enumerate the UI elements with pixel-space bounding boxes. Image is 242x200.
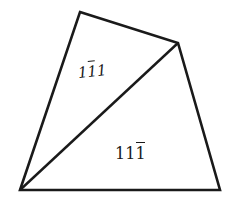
region-label-upper: 111 xyxy=(77,63,107,81)
region-label-lower: 111 xyxy=(115,146,146,162)
label-digit: 1 xyxy=(125,146,135,162)
label-digit-barred: 1 xyxy=(135,146,145,162)
label-digit: 1 xyxy=(115,146,125,162)
quadrilateral-diagram xyxy=(0,0,242,200)
label-digit: 1 xyxy=(96,63,107,79)
